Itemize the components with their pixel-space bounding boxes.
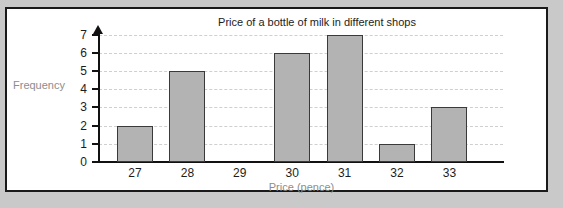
y-tick-mark [92,106,99,108]
y-tick-mark [92,161,99,163]
x-tick-label: 32 [377,167,417,179]
y-tick-mark [92,143,99,145]
y-tick-label: 2 [69,120,87,132]
y-tick-mark [92,52,99,54]
gridline [99,35,503,36]
y-tick-label: 4 [69,83,87,95]
y-tick-mark [92,34,99,36]
bar [327,35,363,162]
y-tick-mark [92,70,99,72]
page-background: Price of a bottle of milk in different s… [0,0,563,208]
bar-chart: Price of a bottle of milk in different s… [7,9,546,190]
x-axis-title: Price (pence) [99,181,504,193]
y-tick-label: 1 [69,138,87,150]
y-tick-label: 3 [69,101,87,113]
figure-frame: Price of a bottle of milk in different s… [5,7,548,192]
y-tick-label: 7 [69,29,87,41]
x-tick-label: 28 [167,167,207,179]
y-tick-mark [92,88,99,90]
x-tick-label: 27 [115,167,155,179]
bar [379,144,415,162]
x-tick-label: 29 [220,167,260,179]
y-tick-label: 6 [69,47,87,59]
bar [169,71,205,162]
y-tick-mark [92,125,99,127]
y-tick-label: 0 [69,156,87,168]
y-tick-label: 5 [69,65,87,77]
y-axis-title: Frequency [13,79,65,91]
x-tick-label: 33 [429,167,469,179]
bar [431,107,467,162]
x-tick-label: 30 [272,167,312,179]
x-tick-label: 31 [325,167,365,179]
bar [274,53,310,162]
bar [117,126,153,162]
